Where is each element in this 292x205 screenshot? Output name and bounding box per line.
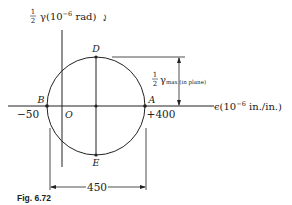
diameter-value: 450 [87,181,107,193]
arrow-right-icon [140,185,146,189]
v-axis-frac-den: 2 [31,17,35,25]
v-axis-frac-num: 1 [31,8,35,16]
gamma-max-label: γmax (in plane) [160,74,206,86]
label-E: E [92,157,100,168]
arrow-up-icon [177,57,181,63]
arrow-left-icon [50,185,56,189]
h-axis-label: ϵ(10−6 in./in.) [214,100,282,112]
label-O: O [65,109,73,120]
gamma-max-frac-num: 1 [153,71,157,79]
point-B [45,104,49,108]
label-A: A [148,94,156,105]
value-left: −50 [17,108,39,120]
point-D [94,55,97,58]
figure-caption: Fig. 6.72 [17,193,51,203]
clockwise-sign-icon: ⤸ [101,13,109,23]
value-right: +400 [147,108,176,120]
mohr-circle-diagram: 450 1 2 γ(10−6 rad) ⤸ ϵ(10−6 in./in.) D … [0,0,292,205]
label-D: D [91,43,100,54]
arrow-down-icon [177,100,181,106]
v-axis-label: γ(10−6 rad) [40,10,97,22]
label-B: B [37,94,45,105]
point-center [94,104,97,107]
gamma-max-frac-den: 2 [153,80,157,88]
